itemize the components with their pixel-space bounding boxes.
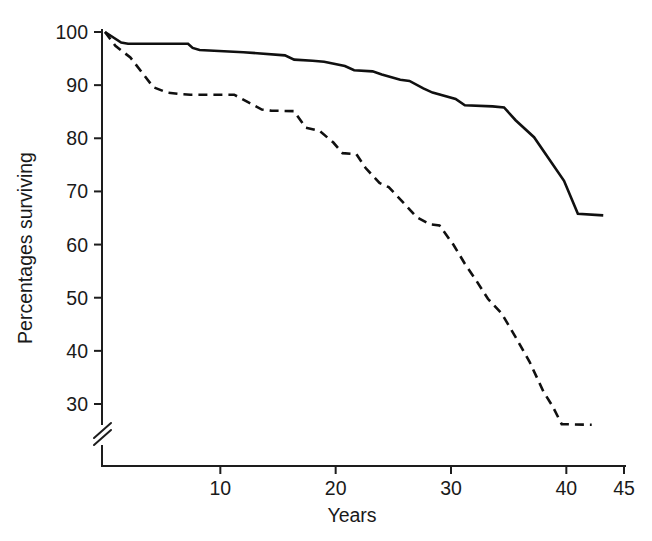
x-tick-label-10: 10: [209, 477, 231, 499]
chart-canvas: 30405060708090100 1020304045 Years Perce…: [0, 0, 652, 541]
x-axis-title: Years: [327, 504, 376, 526]
x-tick-label-40: 40: [555, 477, 577, 499]
y-axis-title: Percentages surviving: [14, 152, 36, 344]
series-group: [105, 32, 603, 425]
x-tick-label-30: 30: [440, 477, 462, 499]
y-tick-label-50: 50: [66, 287, 88, 309]
x-tick-labels: 1020304045: [209, 477, 635, 499]
x-tick-marks: [220, 466, 624, 474]
y-tick-label-40: 40: [66, 340, 88, 362]
survival-curve-figure: 30405060708090100 1020304045 Years Perce…: [0, 0, 652, 541]
y-tick-labels: 30405060708090100: [55, 21, 88, 415]
y-tick-label-100: 100: [55, 21, 88, 43]
series-solid-curve: [105, 32, 603, 215]
y-tick-label-90: 90: [66, 74, 88, 96]
y-tick-label-70: 70: [66, 180, 88, 202]
y-tick-label-60: 60: [66, 234, 88, 256]
y-axis-break-icon: [94, 423, 111, 445]
y-tick-label-30: 30: [66, 393, 88, 415]
series-dashed-curve: [105, 32, 592, 425]
y-tick-label-80: 80: [66, 127, 88, 149]
x-tick-label-45: 45: [613, 477, 635, 499]
y-tick-marks: [94, 32, 102, 404]
x-tick-label-20: 20: [325, 477, 347, 499]
y-axis-group: 30405060708090100: [55, 21, 111, 466]
x-axis-group: 1020304045: [102, 466, 635, 499]
